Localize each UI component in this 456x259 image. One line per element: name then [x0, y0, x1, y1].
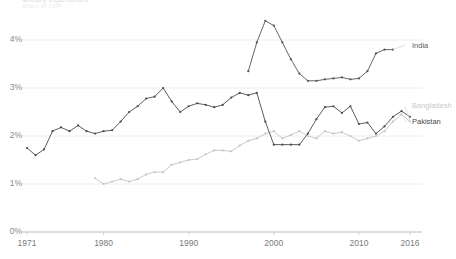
series-label-bangladesh: Bangladesh: [412, 101, 452, 110]
data-point: [247, 140, 249, 142]
data-point: [349, 135, 351, 137]
data-point: [51, 130, 53, 132]
data-point: [315, 137, 317, 139]
data-point: [162, 171, 164, 173]
data-point: [290, 134, 292, 136]
line-chart-plot: [0, 0, 456, 259]
data-point: [60, 126, 62, 128]
series-label-pakistan: Pakistan: [412, 117, 441, 126]
data-point: [222, 149, 224, 151]
data-point: [179, 161, 181, 163]
data-point: [264, 121, 266, 123]
data-point: [85, 130, 87, 132]
data-point: [358, 140, 360, 142]
data-point: [239, 92, 241, 94]
data-point: [264, 133, 266, 135]
data-point: [145, 173, 147, 175]
data-point: [324, 130, 326, 132]
data-point: [137, 105, 139, 107]
data-point: [341, 131, 343, 133]
data-point: [205, 153, 207, 155]
data-point: [290, 58, 292, 60]
x-tick-label: 2010: [339, 238, 379, 248]
data-point: [256, 41, 258, 43]
data-point: [375, 52, 377, 54]
series-line-pakistan: [27, 88, 410, 155]
data-point: [273, 130, 275, 132]
data-point: [264, 20, 266, 22]
data-point: [154, 171, 156, 173]
data-point: [128, 181, 130, 183]
data-point: [341, 76, 343, 78]
data-point: [273, 25, 275, 27]
data-point: [77, 124, 79, 126]
x-tick-label: 1980: [84, 238, 124, 248]
data-point: [222, 104, 224, 106]
x-tick-label: 2000: [254, 238, 294, 248]
data-point: [332, 105, 334, 107]
data-point: [383, 125, 385, 127]
data-point: [315, 118, 317, 120]
data-point: [349, 105, 351, 107]
data-point: [154, 96, 156, 98]
data-point: [324, 78, 326, 80]
data-point: [307, 133, 309, 135]
data-point: [392, 121, 394, 123]
data-point: [281, 137, 283, 139]
y-tick-label: 3%: [0, 82, 22, 92]
data-point: [315, 80, 317, 82]
data-point: [128, 111, 130, 113]
data-point: [103, 183, 105, 185]
data-point: [400, 113, 402, 115]
data-point: [188, 105, 190, 107]
x-tick-label: 2016: [390, 238, 430, 248]
data-point: [358, 77, 360, 79]
data-point: [281, 41, 283, 43]
series-line-bangladesh: [95, 114, 410, 184]
data-point: [383, 49, 385, 51]
series-line-india: [248, 21, 393, 81]
data-point: [120, 121, 122, 123]
chart-container: Military expenditure Share of GDP 0%1%2%…: [0, 0, 456, 259]
data-point: [298, 144, 300, 146]
data-point: [375, 133, 377, 135]
data-point: [196, 102, 198, 104]
series-label-india: India: [412, 41, 428, 50]
y-tick-label: 2%: [0, 130, 22, 140]
data-point: [256, 137, 258, 139]
data-point: [137, 178, 139, 180]
data-point: [111, 181, 113, 183]
data-point: [179, 111, 181, 113]
data-point: [281, 144, 283, 146]
data-point: [171, 164, 173, 166]
data-point: [230, 97, 232, 99]
data-point: [375, 135, 377, 137]
data-point: [298, 73, 300, 75]
data-point: [94, 177, 96, 179]
data-point: [43, 148, 45, 150]
data-point: [366, 70, 368, 72]
data-point: [366, 121, 368, 123]
data-point: [383, 130, 385, 132]
data-point: [273, 144, 275, 146]
data-point: [230, 150, 232, 152]
data-point: [358, 123, 360, 125]
data-point: [34, 154, 36, 156]
data-point: [349, 78, 351, 80]
data-point: [213, 106, 215, 108]
data-point: [162, 87, 164, 89]
data-point: [26, 147, 28, 149]
data-point: [400, 110, 402, 112]
data-point: [247, 70, 249, 72]
x-tick-label: 1990: [169, 238, 209, 248]
data-point: [366, 137, 368, 139]
data-point: [256, 92, 258, 94]
x-tick-label: 1971: [7, 238, 47, 248]
data-point: [188, 159, 190, 161]
data-point: [332, 77, 334, 79]
data-point: [290, 144, 292, 146]
data-point: [68, 130, 70, 132]
label-connector: [393, 45, 405, 50]
data-point: [205, 104, 207, 106]
data-point: [171, 100, 173, 102]
